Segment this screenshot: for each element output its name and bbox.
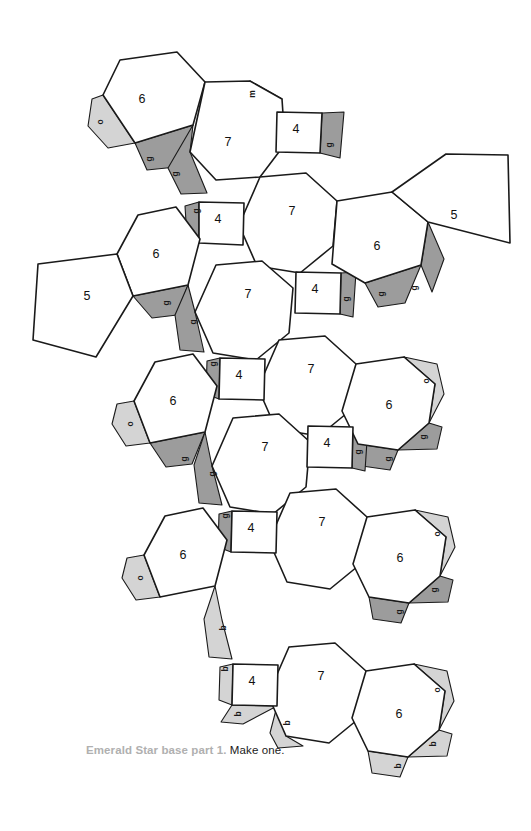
tab-label: g (170, 171, 180, 176)
tab-label: g (341, 296, 351, 301)
tab-label: g (409, 285, 419, 290)
tab-label: g (383, 456, 393, 461)
tab-label: o (432, 531, 442, 536)
tab-label: g (394, 609, 404, 614)
face-number-label: 5 (84, 289, 91, 303)
tab-label: o (125, 421, 135, 426)
tab-label: g (188, 319, 198, 324)
face-hep-upper (239, 173, 337, 273)
face-number-label: 7 (318, 669, 325, 683)
face-number-label: 6 (397, 551, 404, 565)
tab-label: b (393, 763, 403, 768)
tab-label: g (208, 361, 218, 366)
glue-tab-b (221, 705, 277, 724)
face-number-label: 4 (312, 282, 319, 296)
face-sq-upper-left (199, 202, 244, 245)
face-number-label: 7 (245, 287, 252, 301)
tab-label: m (247, 90, 257, 98)
glue-tab-g (320, 112, 344, 158)
face-number-label: 6 (139, 92, 146, 106)
tab-label: g (161, 300, 171, 305)
tab-label: g (191, 208, 201, 213)
face-number-label: 4 (249, 674, 256, 688)
face-number-label: 4 (248, 521, 255, 535)
tab-label: o (432, 687, 442, 692)
tab-label: g (376, 291, 386, 296)
face-hep-top (190, 81, 285, 180)
face-hep-bottom (268, 643, 366, 743)
face-number-label: 7 (289, 204, 296, 218)
caption-instruction: Make one. (227, 744, 285, 756)
face-number-label: 6 (180, 548, 187, 562)
tab-label: b (428, 741, 438, 746)
tab-label: b (220, 666, 230, 671)
tab-label: o (135, 575, 145, 580)
face-number-label: 6 (153, 247, 160, 261)
tab-label: o (95, 119, 105, 124)
tab-label: g (429, 587, 439, 592)
face-number-label: 5 (451, 208, 458, 222)
tab-label: g (179, 456, 189, 461)
tab-label: g (353, 449, 363, 454)
tab-label: b (218, 625, 228, 630)
tab-label: g (207, 471, 217, 476)
caption-title: Emerald Star base part 1. (86, 744, 227, 756)
face-number-label: 6 (386, 398, 393, 412)
face-number-label: 7 (308, 362, 315, 376)
face-number-label: 4 (324, 436, 331, 450)
tab-label: g (220, 513, 230, 518)
face-number-label: 6 (170, 394, 177, 408)
face-number-label: 7 (262, 440, 269, 454)
glue-tab-b (204, 586, 232, 659)
tab-label: o (421, 378, 431, 383)
face-number-label: 6 (396, 707, 403, 721)
face-number-label: 7 (225, 135, 232, 149)
face-number-label: 4 (215, 212, 222, 226)
face-pent-left-upper (33, 254, 133, 357)
tab-label: g (144, 156, 154, 161)
face-number-label: 4 (236, 368, 243, 382)
face-number-label: 4 (293, 122, 300, 136)
tab-label: g (324, 142, 334, 147)
caption: Emerald Star base part 1. Make one. (86, 744, 284, 756)
papercraft-sheet: oggmggggggggogogggggoboggbbbobb 67474656… (0, 0, 531, 831)
face-number-label: 6 (374, 239, 381, 253)
face-number-label: 7 (319, 515, 326, 529)
net-diagram: oggmggggggggogogggggoboggbbbobb 67474656… (0, 0, 531, 831)
tab-label: g (418, 434, 428, 439)
tab-label: b (282, 720, 292, 725)
tab-label: b (233, 711, 243, 716)
glue-tab-g (340, 272, 356, 317)
